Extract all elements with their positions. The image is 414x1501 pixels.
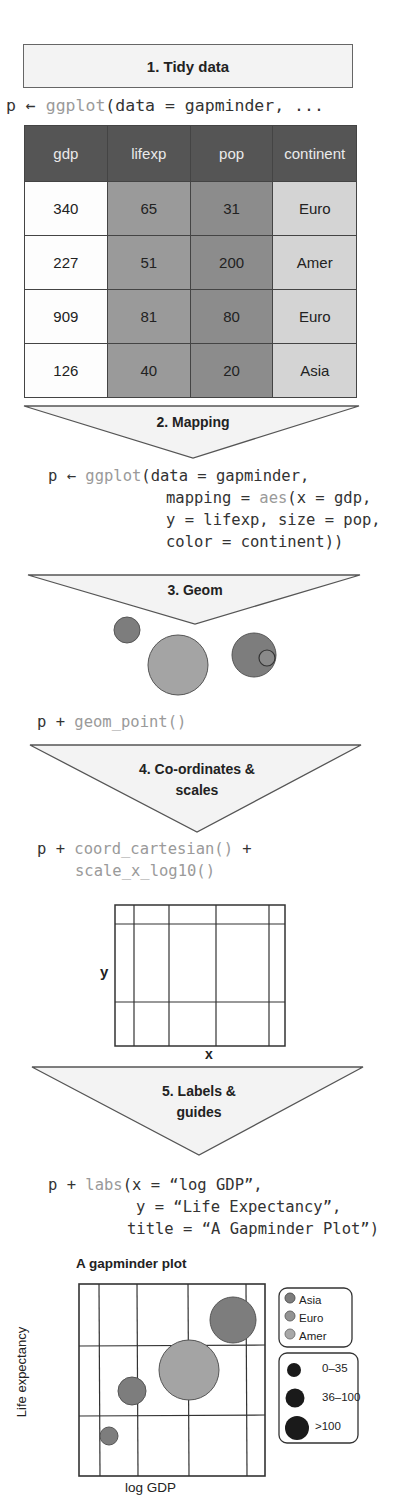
step-3-label: 3. Geom — [75, 580, 315, 601]
code-function: aes — [259, 489, 287, 507]
legend-label-amer: Amer — [299, 1327, 326, 1345]
code-args: (x = “log GDP”, — [123, 1176, 263, 1194]
code-scale: scale_x_log10() — [75, 860, 215, 882]
code-function: coord_cartesian() — [74, 840, 233, 858]
coord-grid-plot — [115, 905, 285, 1046]
code-mapping-line2: mapping = aes(x = gdp, — [166, 487, 371, 509]
plot-point-amer — [118, 1377, 146, 1405]
legend-size-label-large: >100 — [315, 1420, 341, 1432]
step-5-label-line2: guides — [79, 1102, 319, 1123]
code-args: (x = gdp, — [287, 489, 371, 507]
code-labs: p + labs(x = “log GDP”, — [48, 1174, 263, 1196]
step-2-label: 2. Mapping — [73, 412, 313, 433]
code-mapping-line3: y = lifexp, size = pop, — [166, 509, 381, 531]
plot-point-euro-large — [159, 1340, 219, 1400]
coord-y-label: y — [100, 963, 108, 980]
code-prefix: p ← — [48, 467, 85, 485]
legend-label-euro: Euro — [299, 1309, 326, 1327]
code-args: (data = gapminder, — [141, 467, 309, 485]
code-function: labs — [85, 1176, 122, 1194]
legend-size-large — [285, 1416, 309, 1440]
code-plus: + — [233, 840, 252, 858]
coord-x-label: x — [205, 1046, 213, 1062]
step-4-label: 4. Co-ordinates & scales — [77, 759, 317, 801]
legend-size-label-medium: 36–100 — [322, 1391, 360, 1403]
code-function: geom_point() — [74, 713, 186, 731]
plot-point-euro-top — [210, 1297, 256, 1343]
code-prefix: p + — [37, 840, 74, 858]
final-plot-xlabel: log GDP — [125, 1480, 176, 1495]
code-mapping-line4: color = continent)) — [166, 531, 343, 553]
legend-swatch-amer — [285, 1329, 295, 1339]
legend-label-asia: Asia — [299, 1291, 326, 1309]
geom-points-illustration — [114, 617, 276, 695]
step-4-label-line2: scales — [77, 780, 317, 801]
geom-point-large — [148, 635, 208, 695]
final-plot-ylabel: Life expectancy — [14, 1317, 29, 1427]
code-coord: p + coord_cartesian() + — [37, 838, 252, 860]
geom-point-small — [114, 617, 140, 643]
flow-triangles — [0, 0, 414, 1501]
geom-point-nested — [259, 650, 275, 666]
code-labs-line3: title = “A Gapminder Plot”) — [127, 1218, 379, 1240]
code-labs-line2: y = “Life Expectancy”, — [136, 1196, 341, 1218]
code-function: ggplot — [85, 467, 141, 485]
legend-swatch-euro — [285, 1311, 295, 1321]
step-5-label-line1: 5. Labels & — [79, 1081, 319, 1102]
code-prefix: p + — [48, 1176, 85, 1194]
color-legend-labels: Asia Euro Amer — [299, 1291, 326, 1345]
code-text: mapping = — [166, 489, 259, 507]
legend-swatch-asia — [285, 1293, 295, 1303]
code-mapping: p ← ggplot(data = gapminder, — [48, 465, 309, 487]
legend-size-medium — [286, 1389, 305, 1408]
plot-point-asia — [100, 1427, 118, 1445]
legend-size-small — [287, 1363, 301, 1377]
code-prefix: p + — [37, 713, 74, 731]
final-plot-title: A gapminder plot — [76, 1256, 187, 1271]
step-5-label: 5. Labels & guides — [79, 1081, 319, 1123]
code-geom: p + geom_point() — [37, 711, 186, 733]
legend-size-label-small: 0–35 — [322, 1362, 348, 1374]
step-4-label-line1: 4. Co-ordinates & — [77, 759, 317, 780]
